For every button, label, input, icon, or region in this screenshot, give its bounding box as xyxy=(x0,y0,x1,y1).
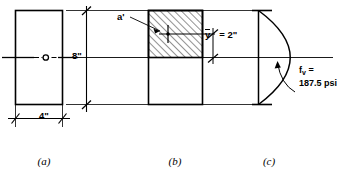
stress-leader-arrow xyxy=(275,61,281,69)
ybar-value: = 2" xyxy=(210,29,237,40)
height-dimension-label: 8" xyxy=(72,50,82,61)
stress-label-group: fv = 187.5 psi xyxy=(299,65,337,89)
stress-equals: = xyxy=(308,65,313,75)
stress-subscript: v xyxy=(302,69,306,76)
centroid-marker xyxy=(43,55,48,60)
partial-centroid-dot xyxy=(166,32,170,36)
caption-panel-c: (c) xyxy=(249,155,289,167)
width-dimension-label: 4" xyxy=(39,110,49,121)
caption-panel-b: (b) xyxy=(155,155,195,167)
ybar-label-group: y= 2" xyxy=(205,29,237,40)
stress-value: 187.5 psi xyxy=(299,78,337,89)
stress-label-line1: fv = xyxy=(299,65,337,78)
caption-panel-a: (a) xyxy=(24,155,64,167)
partial-area-label: a' xyxy=(117,11,125,22)
